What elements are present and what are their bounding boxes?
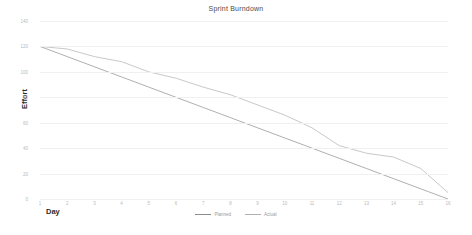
legend-item-planned[interactable]: Planned bbox=[195, 212, 231, 217]
chart-legend: PlannedActual bbox=[0, 212, 472, 217]
y-tick-label: 100 bbox=[4, 69, 28, 74]
legend-swatch-icon bbox=[245, 214, 261, 215]
gridline bbox=[40, 148, 448, 149]
x-tick-label: 12 bbox=[329, 201, 349, 206]
series-lines bbox=[40, 21, 448, 199]
x-tick-label: 7 bbox=[193, 201, 213, 206]
series-line-actual bbox=[40, 46, 448, 192]
gridline bbox=[40, 72, 448, 73]
chart-title: Sprint Burndown bbox=[0, 5, 472, 12]
plot-area bbox=[40, 21, 448, 199]
gridline bbox=[40, 123, 448, 124]
y-tick-label: 20 bbox=[4, 171, 28, 176]
gridline bbox=[40, 21, 448, 22]
x-tick-label: 13 bbox=[356, 201, 376, 206]
x-tick-label: 2 bbox=[57, 201, 77, 206]
y-tick-label: 60 bbox=[4, 120, 28, 125]
y-tick-label: 40 bbox=[4, 146, 28, 151]
gridline bbox=[40, 199, 448, 200]
legend-item-actual[interactable]: Actual bbox=[245, 212, 277, 217]
gridline bbox=[40, 46, 448, 47]
y-tick-label: 0 bbox=[4, 197, 28, 202]
y-tick-label: 140 bbox=[4, 19, 28, 24]
x-tick-label: 6 bbox=[166, 201, 186, 206]
y-tick-label: 80 bbox=[4, 95, 28, 100]
x-tick-label: 16 bbox=[438, 201, 458, 206]
x-tick-label: 9 bbox=[248, 201, 268, 206]
x-tick-label: 11 bbox=[302, 201, 322, 206]
y-tick-label: 120 bbox=[4, 44, 28, 49]
legend-swatch-icon bbox=[195, 214, 211, 215]
x-tick-label: 4 bbox=[112, 201, 132, 206]
x-tick-label: 15 bbox=[411, 201, 431, 206]
x-tick-label: 8 bbox=[220, 201, 240, 206]
x-tick-label: 10 bbox=[275, 201, 295, 206]
x-tick-label: 5 bbox=[139, 201, 159, 206]
x-tick-label: 14 bbox=[384, 201, 404, 206]
sprint-burndown-chart: Sprint Burndown Effort Day 0204060801001… bbox=[0, 0, 472, 235]
x-tick-label: 3 bbox=[84, 201, 104, 206]
legend-label: Actual bbox=[264, 212, 277, 217]
x-tick-label: 1 bbox=[30, 201, 50, 206]
gridline bbox=[40, 97, 448, 98]
gridline bbox=[40, 174, 448, 175]
legend-label: Planned bbox=[214, 212, 231, 217]
